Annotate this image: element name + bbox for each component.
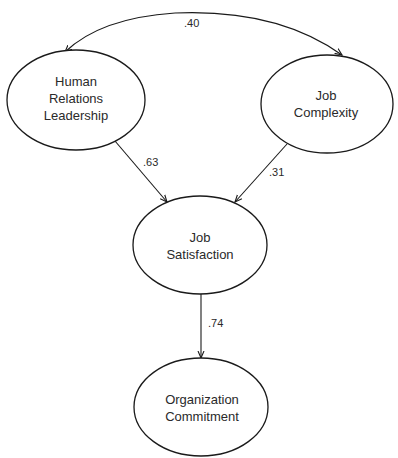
node-label-line: Job xyxy=(316,88,337,103)
node-organization-commitment: Organization Commitment xyxy=(134,358,268,456)
node-label-line: Commitment xyxy=(165,409,239,424)
node-job-complexity: Job Complexity xyxy=(261,55,393,153)
node-label-line: Leadership xyxy=(44,108,108,123)
node-label-line: Organization xyxy=(165,392,239,407)
edge-correlation-hrl-jc-right xyxy=(175,13,342,55)
node-label-line: Complexity xyxy=(294,105,359,120)
node-human-relations-leadership: Human Relations Leadership xyxy=(7,50,145,150)
node-label-line: Human xyxy=(55,74,97,89)
edge-label-hrl-jc: .40 xyxy=(184,17,199,29)
path-diagram: .40 .63 .31 .74 Human Relations Leadersh… xyxy=(0,0,398,458)
edge-correlation-hrl-jc xyxy=(65,13,175,52)
node-job-satisfaction: Job Satisfaction xyxy=(133,196,267,294)
edge-label-jc-js: .31 xyxy=(269,166,284,178)
node-label-line: Satisfaction xyxy=(166,247,233,262)
edge-label-hrl-js: .63 xyxy=(143,156,158,168)
node-label-line: Job xyxy=(190,230,211,245)
edge-hrl-js xyxy=(115,141,167,202)
edge-label-js-oc: .74 xyxy=(208,317,223,329)
node-label-line: Relations xyxy=(49,91,104,106)
